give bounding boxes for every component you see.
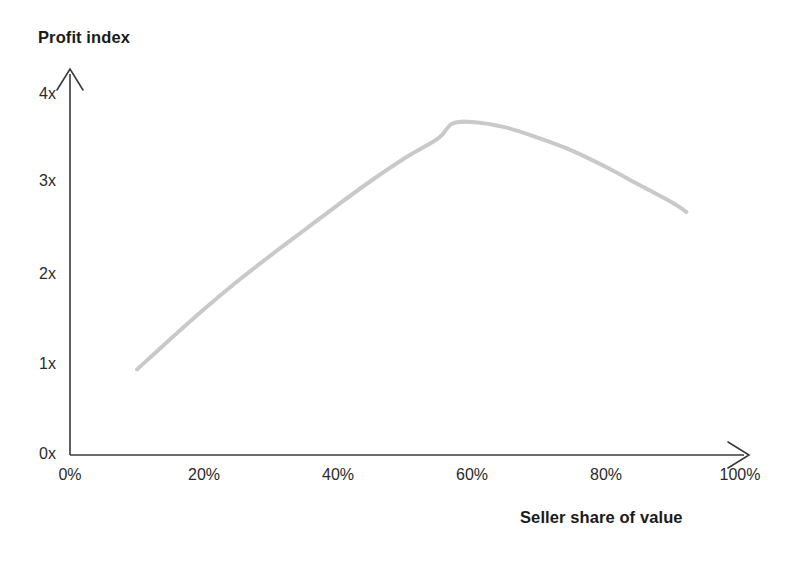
y-axis-title: Profit index: [38, 28, 130, 47]
x-tick-label: 100%: [705, 466, 775, 484]
x-tick-label: 80%: [571, 466, 641, 484]
y-tick-label: 3x: [12, 172, 56, 190]
profit-index-chart: Profit index Seller share of value 4x3x2…: [0, 0, 788, 562]
y-tick-label: 0x: [12, 445, 56, 463]
y-tick-label: 1x: [12, 355, 56, 373]
profit-curve: [137, 122, 686, 370]
x-tick-label: 40%: [303, 466, 373, 484]
x-tick-label: 0%: [35, 466, 105, 484]
x-tick-label: 60%: [437, 466, 507, 484]
x-axis: [70, 442, 749, 468]
y-tick-label: 4x: [12, 85, 56, 103]
x-tick-label: 20%: [169, 466, 239, 484]
chart-canvas: [0, 0, 788, 562]
y-axis: [57, 69, 83, 455]
x-axis-title: Seller share of value: [520, 508, 683, 527]
y-tick-label: 2x: [12, 265, 56, 283]
